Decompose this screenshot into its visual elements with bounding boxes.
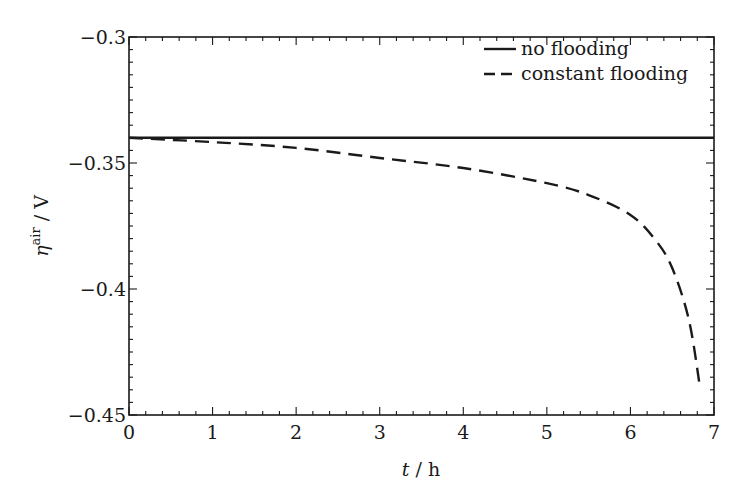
x-tick-label: 1 [207, 421, 219, 443]
plot-area [129, 37, 714, 415]
axis-ticks [129, 37, 714, 415]
x-tick-label: 7 [708, 421, 720, 443]
legend-label: constant flooding [521, 62, 688, 84]
line-chart: 01234567−0.3−0.35−0.4−0.45 no floodingco… [0, 0, 754, 498]
axis-tick-labels: 01234567−0.3−0.35−0.4−0.45 [68, 26, 720, 443]
x-tick-label: 5 [541, 421, 553, 443]
legend: no floodingconstant flooding [484, 37, 688, 84]
x-tick-label: 3 [374, 421, 386, 443]
y-tick-label: −0.45 [68, 404, 126, 426]
series-lines [129, 138, 714, 386]
series-line-constant-flooding [129, 138, 700, 386]
y-tick-label: −0.3 [80, 26, 126, 48]
x-axis-label: t / h [402, 458, 440, 480]
y-axis-label: ηair / V [28, 195, 52, 257]
x-tick-label: 6 [624, 421, 636, 443]
legend-label: no flooding [521, 37, 629, 59]
y-tick-label: −0.35 [68, 152, 126, 174]
y-tick-label: −0.4 [80, 278, 126, 300]
x-tick-label: 4 [457, 421, 469, 443]
x-tick-label: 2 [290, 421, 302, 443]
